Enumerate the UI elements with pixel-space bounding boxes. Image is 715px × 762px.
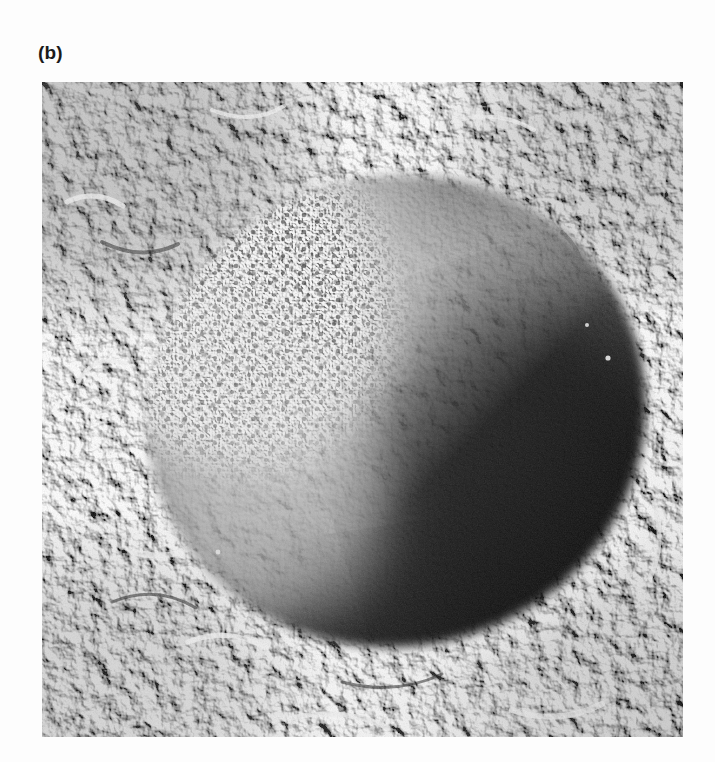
micrograph-image (42, 82, 683, 737)
micrograph-canvas (42, 82, 683, 737)
panel-label: (b) (38, 42, 63, 64)
photographic-grain (42, 82, 683, 737)
figure-panel: (b) (0, 0, 715, 762)
